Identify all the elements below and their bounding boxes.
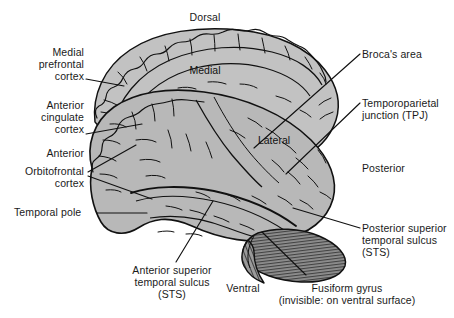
- label-line: cingulate: [41, 111, 84, 123]
- orientation-label-anterior: Anterior: [46, 147, 84, 159]
- label-line: cortex: [55, 123, 84, 135]
- label-line: Posterior superior: [362, 222, 447, 234]
- label-line: (STS): [362, 246, 390, 258]
- label-line: cortex: [55, 70, 84, 82]
- label-line: Fusiform gyrus: [312, 282, 383, 294]
- surface-label-lateral: Lateral: [258, 134, 290, 146]
- label-line: (invisible: on ventral surface): [279, 294, 416, 306]
- label-line: junction (TPJ): [362, 109, 428, 121]
- label-line: cortex: [55, 177, 84, 189]
- label-line: (STS): [158, 288, 186, 300]
- label-line: Temporal pole: [14, 206, 81, 218]
- cerebellum: [242, 229, 346, 283]
- orientation-label-dorsal: Dorsal: [190, 11, 221, 23]
- label-line: Temporoparietal: [362, 97, 439, 109]
- orientation-label-posterior: Posterior: [362, 162, 405, 174]
- label-line: temporal sulcus: [134, 276, 209, 288]
- label-line: Medial: [52, 46, 84, 58]
- orientation-label-ventral: Ventral: [226, 282, 259, 294]
- label-line: temporal sulcus: [362, 234, 437, 246]
- label-line: Anterior: [46, 99, 84, 111]
- label-line: Anterior superior: [132, 264, 211, 276]
- surface-label-medial: Medial: [190, 64, 221, 76]
- label-line: Broca's area: [362, 48, 422, 60]
- label-line: prefrontal: [39, 58, 84, 70]
- label-line: Orbitofrontal: [25, 165, 84, 177]
- brain-diagram-figure: Dorsal Ventral Anterior Posterior Medial…: [0, 0, 454, 318]
